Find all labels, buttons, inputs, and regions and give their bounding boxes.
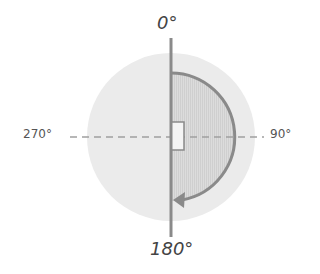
label-90-degrees: 90° bbox=[270, 127, 291, 141]
label-270-degrees: 270° bbox=[23, 127, 52, 141]
label-0-degrees: 0° bbox=[157, 12, 177, 33]
center-marker bbox=[171, 122, 184, 150]
label-180-degrees: 180° bbox=[150, 238, 193, 259]
